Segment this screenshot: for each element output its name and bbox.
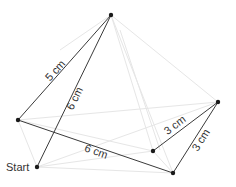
point-mid	[151, 149, 155, 153]
segment-label-6cm-vertical: 6 cm	[64, 85, 85, 112]
segment-label-3cm-lower: 3 cm	[189, 127, 212, 154]
start-label: Start	[6, 161, 29, 173]
point-top	[109, 13, 113, 17]
point-bottom	[171, 171, 175, 175]
diagram-canvas: 5 cm 6 cm 6 cm 3 cm 3 cm Start	[0, 0, 236, 187]
segment-label-5cm: 5 cm	[43, 57, 68, 83]
point-left	[16, 118, 20, 122]
point-start	[35, 165, 39, 169]
segment-label-6cm-horizontal: 6 cm	[83, 142, 109, 161]
point-right	[216, 100, 220, 104]
path-diagram: 5 cm 6 cm 6 cm 3 cm 3 cm Start	[0, 0, 236, 187]
segment-label-3cm-upper: 3 cm	[161, 113, 187, 137]
